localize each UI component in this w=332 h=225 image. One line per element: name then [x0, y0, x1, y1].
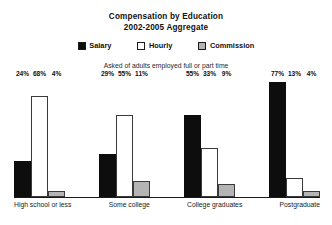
chart-container: Compensation by Education 2002-2005 Aggr…	[0, 0, 332, 225]
legend-swatch-salary-icon	[78, 42, 86, 50]
bar-wrap: 33%	[201, 78, 218, 197]
category-label: Postgraduate	[280, 201, 320, 208]
category-label: Some college	[109, 201, 150, 208]
bar-value-label: 13%	[288, 70, 301, 77]
bar-wrap: 77%	[269, 78, 286, 197]
bar-wrap: 29%	[99, 78, 116, 197]
bar-wrap: 4%	[48, 78, 65, 197]
bar-value-label: 24%	[16, 70, 29, 77]
bar-value-label: 4%	[52, 70, 62, 77]
bar-value-label: 4%	[307, 70, 317, 77]
bar-wrap: 13%	[286, 78, 303, 197]
x-axis-line	[14, 197, 320, 198]
bar-hourly	[201, 148, 218, 197]
bar-wrap: 55%	[116, 78, 133, 197]
bar-wrap: 24%	[14, 78, 31, 197]
bar-hourly	[116, 115, 133, 197]
chart-subtitle: 2002-2005 Aggregate	[0, 23, 332, 34]
legend-label-salary: Salary	[89, 41, 111, 50]
bar-value-label: 9%	[222, 70, 232, 77]
bar-value-label: 11%	[135, 70, 148, 77]
bar-wrap: 68%	[31, 78, 48, 197]
x-axis-category-labels: High school or less Some college College…	[14, 201, 320, 208]
bar-salary	[184, 115, 201, 197]
legend-swatch-commission-icon	[198, 42, 206, 50]
bar-commission	[133, 181, 150, 197]
bar-group: 24% 68% 4%	[14, 78, 65, 197]
bar-value-label: 55%	[118, 70, 131, 77]
legend-item-commission: Commission	[198, 41, 254, 50]
chart-legend: Salary Hourly Commission	[0, 41, 332, 50]
bar-salary	[269, 82, 286, 197]
bar-wrap: 9%	[218, 78, 235, 197]
bar-value-label: 55%	[186, 70, 199, 77]
bar-salary	[14, 161, 31, 197]
bar-groups: 24% 68% 4% 29% 55%	[14, 78, 320, 197]
plot-area: 24% 68% 4% 29% 55%	[14, 78, 320, 198]
bar-salary	[99, 154, 116, 197]
bar-hourly	[31, 96, 48, 197]
bar-value-label: 29%	[101, 70, 114, 77]
bar-value-label: 77%	[271, 70, 284, 77]
bar-group: 77% 13% 4%	[269, 78, 320, 197]
legend-label-commission: Commission	[210, 41, 254, 50]
legend-swatch-hourly-icon	[137, 42, 145, 50]
chart-title-block: Compensation by Education 2002-2005 Aggr…	[0, 12, 332, 33]
bar-value-label: 33%	[203, 70, 216, 77]
category-label: High school or less	[14, 201, 71, 208]
chart-title: Compensation by Education	[0, 12, 332, 23]
category-label: College graduates	[187, 201, 242, 208]
bar-group: 29% 55% 11%	[99, 78, 150, 197]
bar-group: 55% 33% 9%	[184, 78, 235, 197]
legend-item-salary: Salary	[78, 41, 112, 50]
chart-annotation: Asked of adults employed full or part ti…	[0, 62, 332, 69]
bar-wrap: 11%	[133, 78, 150, 197]
legend-item-hourly: Hourly	[137, 41, 172, 50]
bar-value-label: 68%	[33, 70, 46, 77]
bar-wrap: 55%	[184, 78, 201, 197]
bar-hourly	[286, 178, 303, 197]
bar-wrap: 4%	[303, 78, 320, 197]
legend-label-hourly: Hourly	[149, 41, 172, 50]
bar-commission	[218, 184, 235, 197]
